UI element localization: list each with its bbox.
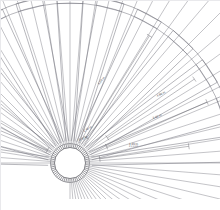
radial-fan-drawing (0, 0, 220, 210)
bottom-margin-band (0, 199, 220, 210)
cad-drawing-canvas: 1.20 m 2 x 0.60 3.60 m 4.80 m 6.00 m 2.4… (0, 0, 220, 210)
radial-spokes-group (0, 0, 220, 210)
hub-inner-circle (55, 148, 86, 179)
dimension-lines-group (0, 34, 208, 162)
